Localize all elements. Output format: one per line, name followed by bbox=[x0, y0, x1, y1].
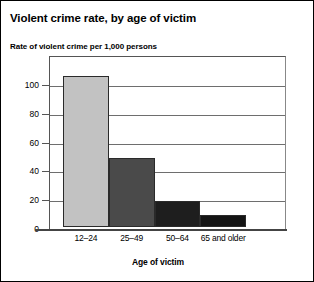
y-tick-mark bbox=[42, 200, 49, 201]
y-tick-mark bbox=[42, 114, 49, 115]
x-tick-label: 65 and older bbox=[183, 233, 263, 243]
bar bbox=[63, 76, 109, 227]
y-tick-mark bbox=[42, 143, 49, 144]
x-axis-line bbox=[35, 229, 287, 231]
x-axis-title: Age of victim bbox=[1, 257, 314, 267]
y-tick-mark bbox=[42, 85, 49, 86]
bar bbox=[155, 201, 201, 227]
y-tick-mark bbox=[42, 171, 49, 172]
bar bbox=[109, 158, 155, 227]
chart-page: Violent crime rate, by age of victim Rat… bbox=[0, 0, 314, 282]
bar bbox=[200, 215, 246, 227]
